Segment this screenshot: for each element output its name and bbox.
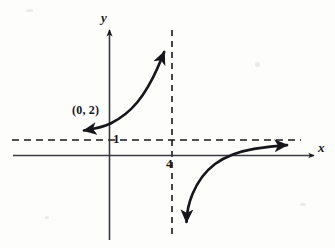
tick-label-y-1: 1 [113,132,120,145]
point-label-0-2: (0, 2) [72,104,99,116]
scan-speck [45,216,49,219]
scan-speck [255,62,260,67]
graph-canvas [0,0,335,248]
tick-label-x-4: 4 [166,157,173,170]
scan-speck [300,203,306,206]
curve-right-branch [187,145,288,222]
curve-left-branch [84,52,164,131]
y-axis-label: y [101,11,107,24]
x-axis-label: x [318,141,325,154]
figure-container: y x 1 4 (0, 2) [0,0,335,248]
scan-speck [26,9,33,12]
